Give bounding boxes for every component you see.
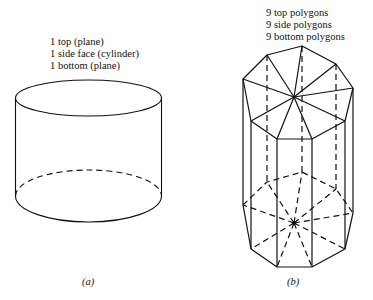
prism-bottom-center [293, 222, 296, 225]
prism-bottom-visible-edges [243, 205, 353, 267]
cylinder-top-ellipse [16, 80, 162, 116]
prism-figure [243, 46, 353, 267]
cylinder-bottom-front-arc [16, 196, 162, 222]
caption-line: 9 top polygons [266, 7, 345, 19]
figure-b-label: (b) [287, 276, 299, 287]
cylinder-bottom-hidden-arc [16, 170, 162, 196]
figure-a-caption: 1 top (plane) 1 side face (cylinder) 1 b… [50, 36, 139, 72]
caption-line: 1 top (plane) [50, 36, 139, 48]
caption-line: 1 side face (cylinder) [50, 48, 139, 60]
figure-a-label: (a) [82, 276, 94, 287]
caption-line: 9 bottom polygons [266, 31, 345, 43]
figure-b-caption: 9 top polygons 9 side polygons 9 bottom … [266, 7, 345, 43]
caption-line: 1 bottom (plane) [50, 60, 139, 72]
caption-line: 9 side polygons [266, 19, 345, 31]
cylinder-figure [16, 80, 162, 222]
